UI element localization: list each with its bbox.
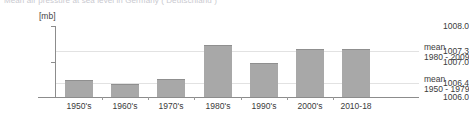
x-tick-mark (287, 97, 288, 100)
mean-annotation-line1: mean (424, 42, 469, 52)
chart-title: Mean air pressure at sea level in German… (4, 0, 217, 5)
y-tick-label: 1008.0 (421, 21, 469, 31)
x-tick-mark (241, 97, 242, 100)
y-tick-mark (51, 26, 56, 27)
y-axis-unit-label: [mb] (39, 11, 56, 21)
x-tick-label: 1970's (159, 101, 184, 111)
x-tick-label: 2000's (298, 101, 323, 111)
x-tick-mark (148, 97, 149, 100)
bar (296, 49, 324, 97)
mean-annotation: mean1980 - 2009 (424, 42, 469, 62)
bar (204, 45, 232, 97)
x-tick-label: 1950's (67, 101, 92, 111)
x-tick-label: 1960's (113, 101, 138, 111)
mean-annotation: mean1950 - 1979 (424, 74, 469, 94)
x-tick-label: 1990's (252, 101, 277, 111)
y-tick-mark (51, 62, 56, 63)
x-tick-label: 1980's (206, 101, 231, 111)
x-tick-mark (102, 97, 103, 100)
bar (342, 49, 370, 97)
bar (250, 63, 278, 97)
x-axis-line (38, 97, 419, 98)
mean-annotation-line2: 1980 - 2009 (424, 52, 469, 62)
bar (111, 84, 139, 97)
bar (157, 79, 185, 97)
mean-annotation-line1: mean (424, 74, 469, 84)
mean-annotation-line2: 1950 - 1979 (424, 84, 469, 94)
x-tick-mark (333, 97, 334, 100)
x-tick-label: 2010-18 (340, 101, 371, 111)
pressure-bar-chart: Mean air pressure at sea level in German… (0, 0, 469, 117)
x-tick-mark (194, 97, 195, 100)
bar (65, 80, 93, 97)
